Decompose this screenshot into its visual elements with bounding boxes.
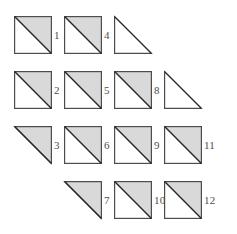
square-upper-right-shaded-icon	[14, 16, 52, 54]
grid-cell-r2c4	[164, 65, 214, 120]
shape-label: 7	[104, 195, 110, 206]
triangle-upper-right-filled-icon	[64, 181, 102, 219]
grid-cell-r4c4: 12	[164, 175, 214, 230]
square-upper-right-shaded-icon	[64, 126, 102, 164]
grid-cell-r3c3: 9	[114, 120, 164, 175]
grid-cell-r2c3: 8	[114, 65, 164, 120]
square-upper-right-shaded-icon	[114, 126, 152, 164]
grid-cell-r2c2: 5	[64, 65, 114, 120]
shape-label: 4	[104, 30, 110, 41]
shape-label: 9	[154, 140, 160, 151]
grid-cell-r4c2: 7	[64, 175, 114, 230]
triangle-upper-right-filled-icon	[14, 126, 52, 164]
grid-cell-r3c4: 11	[164, 120, 214, 175]
triangle-lower-left-open-icon	[164, 71, 202, 109]
square-upper-right-shaded-icon	[164, 181, 202, 219]
shape-label: 8	[154, 85, 160, 96]
shape-label: 11	[204, 140, 215, 151]
triangle-lower-left-open-icon	[114, 16, 152, 54]
shape-grid-figure: 142583691171012	[0, 0, 237, 234]
grid-cell-r1c4	[164, 10, 214, 65]
shape-label: 1	[54, 30, 60, 41]
square-upper-right-shaded-icon	[64, 71, 102, 109]
square-upper-right-shaded-icon	[64, 16, 102, 54]
grid-cell-r3c1: 3	[14, 120, 64, 175]
square-upper-right-shaded-icon	[14, 71, 52, 109]
shape-label: 2	[54, 85, 60, 96]
shape-label: 6	[104, 140, 110, 151]
grid-cell-r1c1: 1	[14, 10, 64, 65]
square-upper-right-shaded-icon	[164, 126, 202, 164]
grid-cell-r1c2: 4	[64, 10, 114, 65]
grid-cell-r4c1	[14, 175, 64, 230]
shape-label: 12	[204, 195, 215, 206]
grid-cell-r2c1: 2	[14, 65, 64, 120]
shape-label: 5	[104, 85, 110, 96]
shape-label: 3	[54, 140, 60, 151]
square-upper-right-shaded-icon	[114, 181, 152, 219]
grid-cell-r4c3: 10	[114, 175, 164, 230]
square-upper-right-shaded-icon	[114, 71, 152, 109]
grid-cell-r3c2: 6	[64, 120, 114, 175]
grid-cell-r1c3	[114, 10, 164, 65]
